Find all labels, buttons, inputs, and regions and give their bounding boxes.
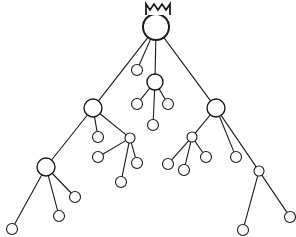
tree-node	[207, 99, 225, 117]
tree-node	[116, 177, 127, 188]
tree-node	[147, 74, 163, 90]
tree-node	[231, 152, 242, 163]
tree-edge	[262, 175, 287, 212]
tree-node	[84, 99, 102, 117]
crown-icon	[146, 4, 170, 15]
tree-edge	[141, 88, 150, 100]
tree-edge	[95, 117, 98, 132]
tree-edge	[131, 143, 135, 158]
tree-node	[132, 65, 143, 76]
tree-node	[179, 165, 190, 176]
tree-edge	[244, 176, 257, 225]
tree-edge	[153, 90, 154, 120]
tree-edge	[172, 141, 189, 160]
tree-node	[132, 158, 143, 169]
tree-edge	[195, 115, 210, 133]
tree-node	[201, 152, 212, 163]
tree-edge	[155, 40, 156, 74]
tree-edge	[52, 174, 71, 194]
tree-node	[163, 159, 174, 170]
tree-node	[37, 158, 55, 176]
tree-node	[93, 132, 104, 143]
tree-edge	[122, 143, 129, 177]
tree-edge	[52, 115, 88, 160]
tree-edge	[48, 176, 57, 211]
tree-node	[285, 212, 296, 223]
root-node	[143, 14, 169, 40]
tree-node	[70, 192, 81, 203]
tree-edge	[164, 37, 211, 100]
tree-edge	[103, 141, 126, 155]
tree-node	[54, 211, 65, 222]
tree-node	[163, 99, 174, 110]
tree-edge	[195, 141, 203, 152]
tree-edge	[139, 39, 151, 65]
tree-node	[132, 99, 143, 110]
tree-node	[254, 166, 264, 176]
tree-edge	[159, 89, 165, 99]
tree-node	[148, 120, 159, 131]
tree-node	[187, 132, 197, 142]
tree-diagram	[0, 0, 296, 237]
tree-edge	[219, 116, 234, 152]
tree-edge	[15, 175, 42, 224]
tree-nodes	[7, 14, 296, 236]
tree-edge	[100, 114, 126, 135]
tree-node	[238, 225, 249, 236]
tree-edge	[185, 142, 191, 165]
tree-edges	[15, 37, 287, 224]
tree-node	[125, 133, 135, 143]
tree-node	[7, 224, 18, 235]
tree-node	[93, 152, 104, 163]
